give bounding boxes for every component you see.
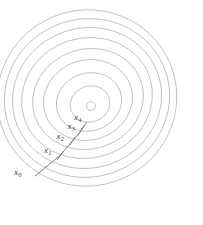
iterate-label-x3-subscript: 3: [72, 125, 75, 132]
contour-figure: x0 x1 x2 x3 x4: [0, 0, 203, 225]
contour-ring-1-minimum-marker: [87, 102, 96, 111]
contour-lines-group: [0, 0, 200, 210]
contour-ring-7: [0, 8, 180, 188]
contour-ring-2: [65, 81, 114, 128]
iterate-label-x2-subscript: 2: [61, 135, 64, 142]
iterate-label-x0-subscript: 0: [18, 171, 21, 178]
tick-mark-x4: [82, 122, 87, 130]
contour-ring-9: [0, 0, 200, 210]
contour-plot-svg: [0, 0, 203, 225]
tick-mark-x1: [57, 152, 63, 161]
iterate-label-x3: x3: [68, 122, 75, 131]
iterate-label-x1-subscript: 1: [48, 149, 51, 156]
iterate-label-x2-base: x: [57, 131, 61, 141]
iterate-label-x1: x1: [44, 146, 51, 155]
iterate-label-x0: x0: [14, 168, 21, 177]
iterate-label-x4: x4: [74, 113, 81, 122]
iterate-label-x2: x2: [57, 132, 64, 141]
contour-ring-4: [33, 48, 143, 152]
iterate-label-x4-subscript: 4: [78, 116, 81, 123]
contour-ring-5: [19, 34, 156, 164]
iterate-label-x3-base: x: [68, 121, 72, 131]
